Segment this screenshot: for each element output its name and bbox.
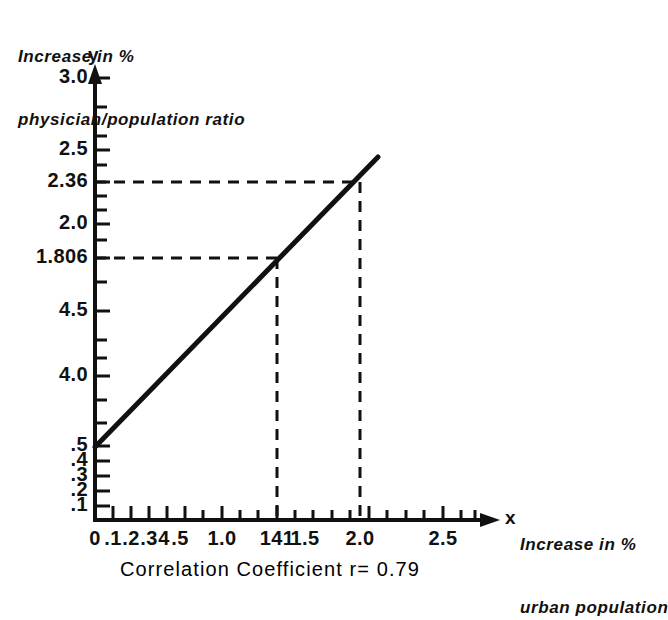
x-axis-tick-label: 2.0 — [330, 527, 390, 550]
x-axis-tick-label: 1.0 — [192, 527, 252, 550]
y-axis-tick-label: 2.5 — [0, 137, 88, 160]
x-axis-ticks — [113, 506, 475, 520]
y-axis-tick-label: 2.36 — [0, 169, 88, 192]
y-axis-tick-label: 4.0 — [0, 363, 88, 386]
y-axis-tick-label: .1 — [0, 493, 88, 516]
y-axis-tick-label: 1.806 — [0, 245, 88, 268]
x-axis-tick-label: 1.5 — [275, 527, 335, 550]
y-axis-tick-label: 2.0 — [0, 211, 88, 234]
y-axis-tick-label: 3.0 — [0, 65, 88, 88]
figure-caption: Correlation Coefficient r= 0.79 — [0, 558, 540, 581]
x-axis-title-line2: urban population — [520, 597, 668, 618]
y-axis-tick-label: 4.5 — [0, 298, 88, 321]
x-axis-tick-label: 2.5 — [413, 527, 473, 550]
y-axis — [88, 64, 102, 520]
regression-line — [95, 157, 378, 447]
